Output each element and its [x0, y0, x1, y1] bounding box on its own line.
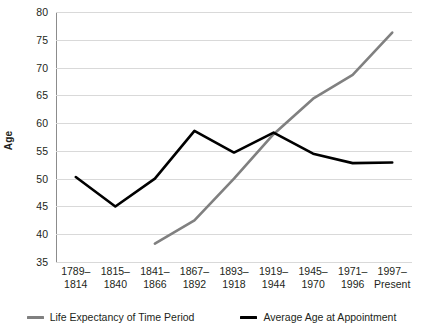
- gridline: [56, 262, 412, 263]
- x-axis-tick-label-line: 1944: [254, 278, 294, 291]
- x-axis-tick-label: 1867–1892: [175, 265, 215, 291]
- y-axis-tick-label: 70: [18, 63, 48, 74]
- x-axis-tick-label-line: 1866: [135, 278, 175, 291]
- x-axis-tick-label: 1789–1814: [56, 265, 96, 291]
- chart-container: Age 80757065605550454035 1789–18141815–1…: [0, 0, 423, 332]
- y-axis-tick-label: 45: [18, 201, 48, 212]
- x-axis-tick-label: 1919–1944: [254, 265, 294, 291]
- y-axis-tick-label: 75: [18, 35, 48, 46]
- x-axis-tick-label-line: 1892: [175, 278, 215, 291]
- x-axis-tick-label-line: 1919–: [254, 265, 294, 278]
- y-axis-tick-label: 65: [18, 90, 48, 101]
- y-axis-title-text: Age: [4, 130, 15, 150]
- x-axis-tick-label-line: 1815–: [96, 265, 136, 278]
- x-axis-tick-label-line: 1867–: [175, 265, 215, 278]
- y-axis-title: Age: [0, 0, 18, 280]
- y-axis-tick-label: 35: [18, 257, 48, 268]
- x-axis-tick-label-line: 1970: [293, 278, 333, 291]
- series-line: [76, 131, 392, 207]
- x-axis-tick-label-line: Present: [372, 278, 412, 291]
- legend-label: Life Expectancy of Time Period: [50, 312, 195, 323]
- x-axis-tick-label-line: 1996: [333, 278, 373, 291]
- x-axis-tick-label: 1997–Present: [372, 265, 412, 291]
- y-axis-tick-label: 80: [18, 7, 48, 18]
- y-axis-tick-label: 40: [18, 229, 48, 240]
- x-axis-tick-label-line: 1893–: [214, 265, 254, 278]
- x-axis-tick-label: 1971–1996: [333, 265, 373, 291]
- y-axis-tick-label: 60: [18, 118, 48, 129]
- series-line: [155, 33, 392, 244]
- legend-color-swatch: [240, 316, 257, 319]
- x-axis-tick-label: 1815–1840: [96, 265, 136, 291]
- legend-item[interactable]: Average Age at Appointment: [240, 312, 396, 323]
- legend-item[interactable]: Life Expectancy of Time Period: [27, 312, 195, 323]
- x-axis-tick-labels: 1789–18141815–18401841–18661867–18921893…: [56, 265, 412, 301]
- x-axis-tick-label-line: 1840: [96, 278, 136, 291]
- legend-label: Average Age at Appointment: [263, 312, 396, 323]
- y-axis-tick-label: 55: [18, 146, 48, 157]
- legend-color-swatch: [27, 316, 44, 319]
- series-lines: [56, 12, 412, 262]
- x-axis-tick-label: 1945–1970: [293, 265, 333, 291]
- x-axis-tick-label-line: 1971–: [333, 265, 373, 278]
- x-axis-tick-label-line: 1997–: [372, 265, 412, 278]
- y-axis-tick-labels: 80757065605550454035: [18, 0, 54, 275]
- x-axis-tick-label-line: 1841–: [135, 265, 175, 278]
- x-axis-tick-label-line: 1918: [214, 278, 254, 291]
- plot-area: [56, 12, 412, 262]
- y-axis-tick-label: 50: [18, 174, 48, 185]
- x-axis-tick-label-line: 1789–: [56, 265, 96, 278]
- x-axis-tick-label-line: 1945–: [293, 265, 333, 278]
- x-axis-tick-label: 1893–1918: [214, 265, 254, 291]
- chart-legend: Life Expectancy of Time PeriodAverage Ag…: [0, 306, 423, 328]
- x-axis-tick-label: 1841–1866: [135, 265, 175, 291]
- x-axis-tick-label-line: 1814: [56, 278, 96, 291]
